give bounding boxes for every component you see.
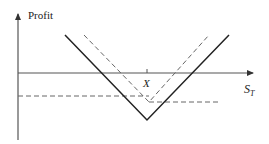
x-axis-label-sub: T [250, 89, 255, 98]
x-axis-label: ST [244, 82, 255, 98]
component-dashed-v [84, 35, 209, 102]
strike-label: X [142, 77, 151, 89]
payoff-diagram: Profit X ST [0, 0, 269, 144]
y-axis-label: Profit [28, 9, 53, 21]
